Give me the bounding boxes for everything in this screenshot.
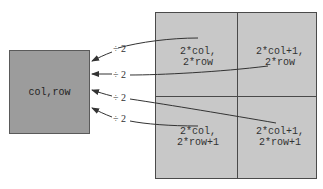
arrow-label-2: ÷ 2 [113, 69, 126, 80]
arrow-top-right [130, 66, 268, 75]
arrow-label-3: ÷ 2 [113, 92, 126, 103]
arrow-bottom-right [130, 99, 276, 123]
arrows-layer: ÷ 2 ÷ 2 ÷ 2 ÷ 2 [0, 0, 323, 189]
arrow-label-1: ÷ 2 [113, 43, 126, 54]
arrow-label-4: ÷ 2 [113, 113, 126, 124]
arrow-top-left [118, 38, 198, 48]
arrow-bottom-left [130, 121, 198, 126]
